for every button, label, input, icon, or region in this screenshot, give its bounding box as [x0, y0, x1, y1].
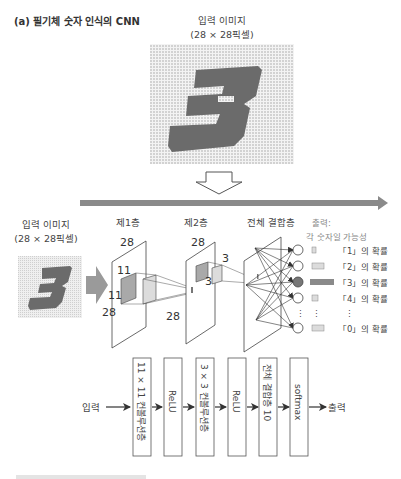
flow-block-label: 전체 결합층 10: [262, 364, 272, 421]
ellipsis-bars: ⋮: [312, 308, 321, 318]
probability-bar: [312, 295, 318, 301]
flow-block-fc: 전체 결합층 10: [259, 358, 277, 456]
output-label: 「4」의 확률: [338, 294, 388, 304]
input-arrow-icon: [86, 266, 108, 304]
layer2-width: 28: [191, 236, 205, 249]
flow-input-label: 입력: [82, 402, 100, 413]
top-input-image: [150, 44, 294, 164]
top-image-label: 입력 이미지: [198, 15, 246, 26]
layer2-plane: [186, 242, 215, 344]
ellipsis-nodes: ⋮: [296, 308, 305, 318]
probability-bar: [312, 263, 324, 269]
output-label: 「0」의 확률: [338, 324, 388, 334]
output-item-3: 「3」의 확률: [293, 277, 388, 288]
flow-block-relu2: ReLU: [228, 358, 246, 456]
output-node: [293, 323, 303, 333]
output-node: [293, 261, 303, 271]
output-item-0: 「0」의 확률: [293, 323, 388, 334]
output-label: 「3」의 확률: [338, 278, 388, 288]
output-node: [293, 245, 303, 255]
layer1-height: 28: [102, 306, 116, 319]
flow-block-relu1: ReLU: [164, 358, 182, 456]
fc-plane: [244, 237, 281, 352]
kernel2-h: 3: [205, 275, 212, 288]
flow-block-softmax: softmax: [290, 358, 308, 456]
flow-block-label: ReLU: [167, 390, 177, 413]
top-image-size: (28 × 28픽셀): [190, 29, 254, 40]
fc-title: 전체 결합층: [247, 217, 295, 228]
output-title: 출력:: [312, 218, 331, 228]
layer1-depth: 28: [166, 310, 180, 323]
ellipsis-labels: ⋮: [345, 308, 354, 318]
output-label: 「2」의 확률: [338, 262, 388, 272]
input-image-label: 입력 이미지: [22, 219, 70, 230]
probability-bar: [312, 325, 324, 331]
cnn-diagram: (a) 필기체 숫자 인식의 CNN 입력 이미지 (28 × 28픽셀) 입력…: [0, 0, 401, 479]
layer1-width: 28: [120, 236, 134, 249]
output-item-4: 「4」의 확률: [293, 293, 388, 304]
output-label: 「1」의 확률: [338, 246, 388, 256]
flow-block-conv3: 3 × 3 컨볼루션층: [196, 358, 214, 456]
layer1-title: 제1층: [116, 217, 140, 228]
flow-block-label: 11 × 11 컨볼루션층: [136, 362, 146, 441]
down-arrow-icon: [196, 172, 242, 194]
flow-block-label: 3 × 3 컨볼루션층: [199, 364, 209, 432]
layer2-title: 제2층: [184, 217, 208, 228]
output-item-1: 「1」의 확률: [293, 245, 388, 256]
output-subtitle: 각 숫자일 가능성: [306, 232, 367, 242]
output-node-active: [293, 277, 303, 287]
figure-title: (a) 필기체 숫자 인식의 CNN: [14, 15, 140, 27]
output-item-2: 「2」의 확률: [293, 261, 388, 272]
kernel1-w: 11: [117, 264, 131, 277]
input-image-size: (28 × 28픽셀): [14, 233, 78, 244]
flow-block-conv11: 11 × 11 컨볼루션층: [133, 358, 151, 456]
kernel2-w: 3: [222, 252, 229, 265]
cutoff-caption: [16, 475, 146, 479]
flow-output-label: 출력: [328, 402, 346, 413]
probability-bar: [310, 279, 334, 285]
flow-block-label: softmax: [293, 384, 303, 421]
input-image-small: [18, 256, 82, 318]
banner-arrow: [80, 196, 388, 210]
kernel1-h: 11: [108, 289, 122, 302]
output-node: [293, 293, 303, 303]
flow-block-label: ReLU: [231, 390, 241, 413]
probability-bar: [312, 247, 316, 253]
